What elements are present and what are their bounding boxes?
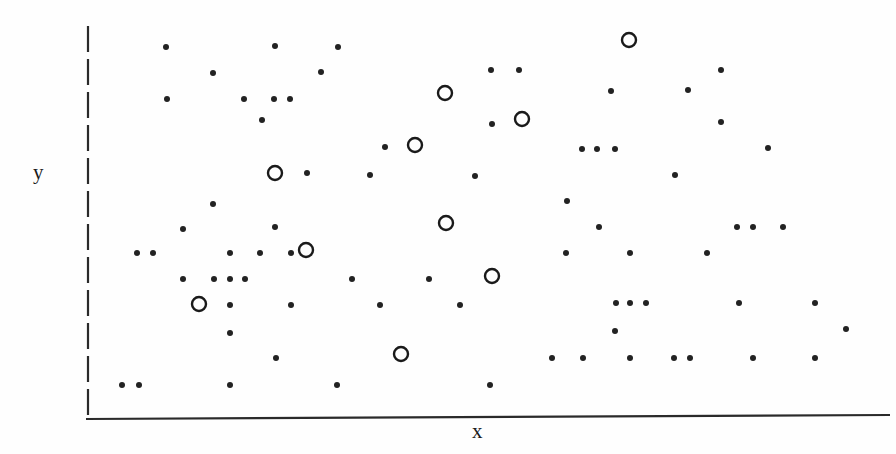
open-circle-marker [394, 347, 408, 361]
dot-marker [627, 250, 633, 256]
dot-marker [765, 145, 771, 151]
dot-marker [612, 146, 618, 152]
dot-marker [750, 355, 756, 361]
dot-marker [210, 201, 216, 207]
dot-marker [382, 144, 388, 150]
axes-group [86, 26, 890, 420]
open-circle-marker [439, 216, 453, 230]
dot-marker [489, 121, 495, 127]
small-dot-markers-group [119, 43, 849, 388]
dot-marker [272, 43, 278, 49]
dot-marker [271, 96, 277, 102]
dot-marker [241, 96, 247, 102]
dot-marker [736, 300, 742, 306]
dot-marker [318, 69, 324, 75]
open-circle-marker [515, 112, 529, 126]
dot-marker [564, 198, 570, 204]
dot-marker [150, 250, 156, 256]
dot-marker [288, 302, 294, 308]
dot-marker [134, 250, 140, 256]
dot-marker [613, 300, 619, 306]
dot-marker [718, 67, 724, 73]
dot-marker [549, 355, 555, 361]
open-circle-marker [438, 86, 452, 100]
dot-marker [843, 326, 849, 332]
dot-marker [288, 250, 294, 256]
open-circle-marker [408, 138, 422, 152]
dot-marker [163, 44, 169, 50]
dot-marker [704, 250, 710, 256]
dot-marker [596, 224, 602, 230]
dot-marker [180, 226, 186, 232]
dot-marker [563, 250, 569, 256]
dot-marker [457, 302, 463, 308]
dot-marker [349, 276, 355, 282]
dot-marker [627, 355, 633, 361]
dot-marker [685, 87, 691, 93]
dot-marker [273, 355, 279, 361]
dot-marker [180, 276, 186, 282]
dot-marker [687, 355, 693, 361]
dot-marker [612, 328, 618, 334]
dot-marker [812, 300, 818, 306]
dot-marker [780, 224, 786, 230]
dot-marker [136, 382, 142, 388]
dot-marker [227, 330, 233, 336]
y-axis-label: y [33, 162, 44, 183]
plot-canvas [0, 0, 896, 454]
open-circle-marker [485, 269, 499, 283]
dot-marker [227, 302, 233, 308]
dot-marker [287, 96, 293, 102]
dot-marker [734, 224, 740, 230]
open-circle-marker [622, 33, 636, 47]
dot-marker [594, 146, 600, 152]
dot-marker [259, 117, 265, 123]
dot-marker [242, 276, 248, 282]
dot-marker [580, 355, 586, 361]
dot-marker [210, 70, 216, 76]
dot-marker [812, 355, 818, 361]
x-axis-solid-line [86, 415, 890, 419]
dot-marker [516, 67, 522, 73]
dot-marker [334, 382, 340, 388]
dot-marker [750, 224, 756, 230]
open-circle-marker [192, 297, 206, 311]
dot-marker [304, 170, 310, 176]
dot-marker [472, 173, 478, 179]
dot-marker [335, 44, 341, 50]
open-circle-marker [299, 243, 313, 257]
x-axis-label: x [472, 421, 483, 442]
dot-marker [488, 67, 494, 73]
dot-marker [367, 172, 373, 178]
dot-marker [272, 224, 278, 230]
dot-marker [643, 300, 649, 306]
dot-marker [211, 276, 217, 282]
open-circle-marker [268, 166, 282, 180]
open-circle-markers-group [192, 33, 636, 361]
dot-marker [487, 382, 493, 388]
dot-marker [227, 382, 233, 388]
dot-marker [627, 300, 633, 306]
dot-marker [377, 302, 383, 308]
dot-marker [718, 119, 724, 125]
dot-marker [227, 250, 233, 256]
dot-marker [119, 382, 125, 388]
dot-marker [227, 276, 233, 282]
dot-marker [671, 355, 677, 361]
dot-marker [426, 276, 432, 282]
scatter-plot-figure: y x [0, 0, 896, 454]
dot-marker [672, 172, 678, 178]
dot-marker [257, 250, 263, 256]
dot-marker [579, 146, 585, 152]
dot-marker [608, 88, 614, 94]
dot-marker [164, 96, 170, 102]
